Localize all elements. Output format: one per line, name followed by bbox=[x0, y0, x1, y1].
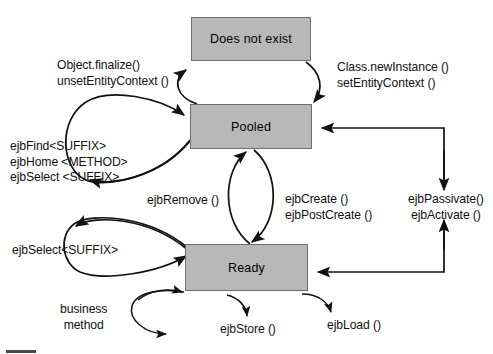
edge-ready-ejbload bbox=[302, 294, 331, 312]
edge-label-pooled-self-loop: ejbFind<SUFFIX> ejbHome <METHOD> ejbSele… bbox=[10, 139, 128, 186]
edge-label-ready-to-pooled: ejbRemove () bbox=[147, 193, 219, 209]
edge-label-ejbload: ejbLoad () bbox=[327, 318, 381, 334]
edge-label-line: Object.finalize() bbox=[57, 58, 169, 74]
edge-label-line: ejbHome <METHOD> bbox=[10, 155, 128, 171]
edge-ready-to-pooled-passivate bbox=[322, 128, 444, 185]
edge-label-ready-self-loop-select: ejbSelect<SUFFIX> bbox=[12, 243, 118, 259]
state-ready[interactable]: Ready bbox=[185, 244, 308, 291]
edge-label-ejbstore: ejbStore () bbox=[220, 322, 276, 338]
edge-label-line: ejbStore () bbox=[220, 322, 276, 338]
edge-label-line: method bbox=[60, 318, 107, 334]
edge-label-line: unsetEntityContext () bbox=[57, 74, 169, 90]
edge-pooled-to-ready-activate bbox=[318, 222, 444, 272]
edge-label-line: ejbRemove () bbox=[147, 193, 219, 209]
edge-label-pooled-to-does-not-exist: Object.finalize() unsetEntityContext () bbox=[57, 58, 169, 89]
state-does-not-exist-label: Does not exist bbox=[210, 32, 292, 46]
state-pooled[interactable]: Pooled bbox=[190, 104, 312, 149]
edge-pooled-to-ready bbox=[252, 150, 273, 242]
state-ready-label: Ready bbox=[228, 261, 265, 275]
edge-label-line: ejbPostCreate () bbox=[285, 208, 372, 224]
edge-ready-to-pooled bbox=[228, 152, 250, 244]
edge-label-passivate-activate: ejbPassivate() ejbActivate () bbox=[408, 192, 484, 223]
edge-label-does-not-exist-to-pooled: Class.newInstance () setEntityContext () bbox=[337, 60, 449, 91]
edge-label-line: Class.newInstance () bbox=[337, 60, 449, 76]
edge-label-line: ejbActivate () bbox=[408, 208, 484, 224]
edge-label-line: ejbCreate () bbox=[285, 192, 372, 208]
edge-label-pooled-to-ready: ejbCreate () ejbPostCreate () bbox=[285, 192, 372, 223]
edge-label-line: ejbSelect <SUFFIX> bbox=[10, 170, 128, 186]
state-diagram: Does not exist Pooled Ready Object.final… bbox=[0, 0, 493, 354]
edge-pooled-to-does-not-exist bbox=[178, 70, 197, 104]
edge-label-business-method: business method bbox=[60, 302, 107, 333]
edge-label-line: ejbPassivate() bbox=[408, 192, 484, 208]
edge-does-not-exist-to-pooled bbox=[306, 62, 320, 102]
page-edge-artifact bbox=[6, 350, 36, 353]
edge-ready-self-loop-business bbox=[131, 291, 184, 334]
edge-label-line: ejbLoad () bbox=[327, 318, 381, 334]
state-does-not-exist[interactable]: Does not exist bbox=[191, 17, 311, 61]
edge-label-line: ejbSelect<SUFFIX> bbox=[12, 243, 118, 259]
state-pooled-label: Pooled bbox=[231, 120, 271, 134]
edge-ready-ejbstore bbox=[227, 295, 247, 316]
edge-label-line: business bbox=[60, 302, 107, 318]
edge-label-line: setEntityContext () bbox=[337, 76, 449, 92]
edge-label-line: ejbFind<SUFFIX> bbox=[10, 139, 128, 155]
